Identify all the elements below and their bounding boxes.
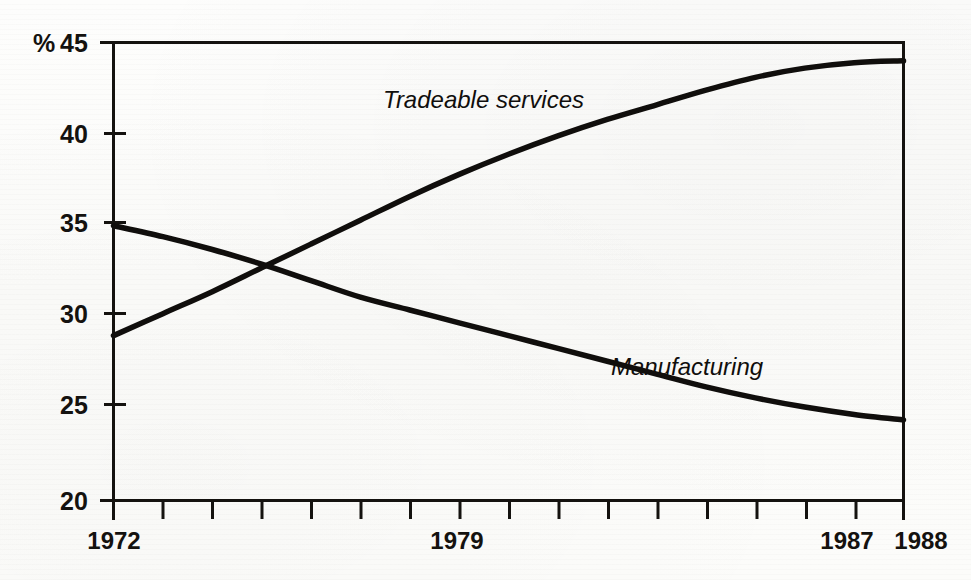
y-tick-label-40: 40 bbox=[60, 120, 88, 148]
x-tick-label-1987: 1987 bbox=[820, 527, 873, 554]
line-chart: % 45 40 35 30 25 20 bbox=[0, 0, 971, 580]
x-axis-tick-labels: 1972 1979 1987 1988 bbox=[87, 527, 947, 554]
y-tick-label-45: 45 bbox=[60, 29, 88, 57]
y-tick-label-20: 20 bbox=[60, 487, 88, 515]
chart-screenshot: % 45 40 35 30 25 20 bbox=[0, 0, 971, 580]
y-tick-label-30: 30 bbox=[60, 300, 88, 328]
x-axis-ticks bbox=[114, 492, 904, 520]
series-annotation-tradeable-services: Tradeable services bbox=[383, 86, 584, 113]
x-tick-label-1988: 1988 bbox=[894, 527, 947, 554]
x-tick-label-1979: 1979 bbox=[430, 527, 483, 554]
y-tick-label-25: 25 bbox=[60, 391, 88, 419]
series-line-manufacturing bbox=[114, 226, 904, 420]
y-axis-unit-label: % bbox=[33, 29, 55, 57]
series-annotation-manufacturing: Manufacturing bbox=[611, 353, 764, 380]
y-axis-tick-labels: % 45 40 35 30 25 20 bbox=[33, 29, 88, 515]
y-tick-label-35: 35 bbox=[60, 209, 88, 237]
x-tick-label-1972: 1972 bbox=[87, 527, 140, 554]
series-lines bbox=[114, 61, 904, 420]
